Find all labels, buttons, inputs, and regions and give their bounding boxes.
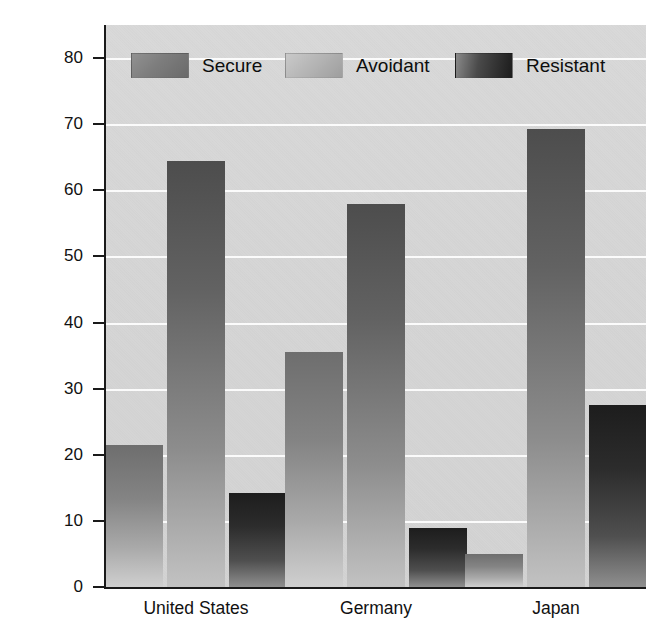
bar-resistant-germany (409, 528, 467, 588)
y-tick-label: 50 (23, 247, 83, 264)
bar-secure-united-states (106, 445, 163, 587)
y-tick-mark (93, 520, 104, 522)
y-tick-label: 60 (23, 181, 83, 198)
resistant-swatch (455, 53, 513, 78)
y-tick-label: 20 (23, 446, 83, 463)
category-label-united-states: United States (106, 598, 286, 619)
y-tick-label: 80 (23, 49, 83, 66)
category-label-japan: Japan (466, 598, 646, 619)
legend-item-resistant[interactable]: Resistant (455, 53, 605, 78)
gridline (106, 124, 646, 126)
legend-label: Secure (202, 56, 262, 75)
y-tick-label: 0 (23, 578, 83, 595)
bar-resistant-united-states (229, 493, 287, 587)
y-tick-mark (93, 57, 104, 59)
category-label-germany: Germany (286, 598, 466, 619)
legend-item-secure[interactable]: Secure (131, 53, 262, 78)
bar-resistant-japan (589, 405, 646, 587)
legend-item-avoidant[interactable]: Avoidant (285, 53, 430, 78)
y-tick-mark (93, 586, 104, 588)
y-tick-mark (93, 123, 104, 125)
y-tick-label: 10 (23, 512, 83, 529)
plot-area (106, 25, 646, 587)
legend-label: Avoidant (356, 56, 430, 75)
x-axis-line (104, 587, 646, 589)
bar-secure-japan (465, 554, 523, 587)
y-tick-label: 40 (23, 314, 83, 331)
bar-avoidant-germany (347, 204, 405, 587)
y-tick-mark (93, 388, 104, 390)
y-tick-mark (93, 454, 104, 456)
legend-label: Resistant (526, 56, 605, 75)
y-tick-mark (93, 322, 104, 324)
avoidant-swatch (285, 53, 343, 78)
bar-avoidant-united-states (167, 161, 225, 587)
y-tick-mark (93, 255, 104, 257)
y-tick-label: 70 (23, 115, 83, 132)
y-tick-mark (93, 189, 104, 191)
secure-swatch (131, 53, 189, 78)
bar-secure-germany (285, 352, 343, 587)
chart-figure: Percentage of infants 01020304050607080 … (0, 0, 648, 637)
y-axis-line (104, 25, 106, 588)
bar-avoidant-japan (527, 129, 585, 587)
y-tick-label: 30 (23, 380, 83, 397)
